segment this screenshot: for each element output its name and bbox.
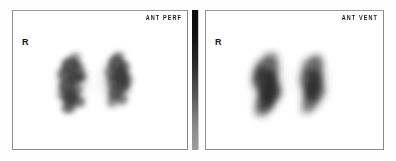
side-marker-right-ventilation: R: [215, 38, 222, 47]
panel-perfusion[interactable]: ANT PERF R: [12, 10, 188, 150]
scan-viewer: ANT PERF R: [0, 0, 396, 161]
view-label-perfusion: ANT PERF: [146, 15, 182, 22]
colorbar-edge-divider: [198, 10, 199, 150]
view-label-ventilation: ANT VENT: [342, 15, 378, 22]
panel-ventilation[interactable]: ANT VENT R: [205, 10, 384, 150]
side-marker-right-perfusion: R: [22, 38, 29, 47]
panel-ventilation-canvas: ANT VENT R: [206, 11, 383, 149]
ventilation-scan-image: [206, 11, 383, 149]
panel-perfusion-canvas: ANT PERF R: [13, 11, 187, 149]
perfusion-scan-image: [13, 11, 187, 149]
